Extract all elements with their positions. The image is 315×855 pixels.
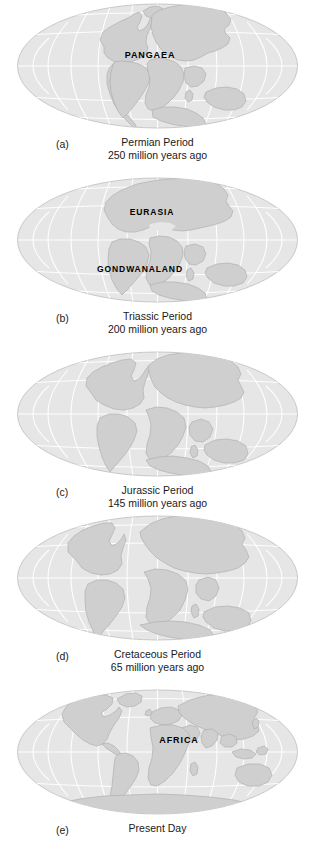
panel-period-a: Permian Period: [0, 136, 315, 149]
panel-a: PANGAEA (a) Permian Period 250 million y…: [0, 0, 315, 157]
map-label-eurasia: EURASIA: [130, 207, 175, 217]
panel-period-c: Jurassic Period: [0, 484, 315, 497]
panel-caption-d: Cretaceous Period 65 million years ago: [0, 648, 315, 673]
panel-caption-a: Permian Period 250 million years ago: [0, 136, 315, 161]
panel-e: AFRICA (e) Present Day: [0, 686, 315, 831]
globe-map-a: PANGAEA: [0, 0, 315, 132]
panel-period-b: Triassic Period: [0, 310, 315, 323]
panel-age-b: 200 million years ago: [0, 323, 315, 336]
panel-caption-b: Triassic Period 200 million years ago: [0, 310, 315, 335]
panel-age-a: 250 million years ago: [0, 149, 315, 162]
globe-map-d: [0, 512, 315, 644]
panel-age-d: 65 million years ago: [0, 661, 315, 674]
panel-period-e: Present Day: [0, 822, 315, 835]
map-label-gondwanaland: GONDWANALAND: [97, 264, 183, 274]
panel-d: (d) Cretaceous Period 65 million years a…: [0, 512, 315, 669]
globe-map-b: EURASIA GONDWANALAND: [0, 174, 315, 306]
panel-period-d: Cretaceous Period: [0, 648, 315, 661]
map-label-africa: AFRICA: [159, 735, 198, 745]
panel-c: (c) Jurassic Period 145 million years ag…: [0, 348, 315, 505]
panel-b: EURASIA GONDWANALAND (b) Triassic Period…: [0, 174, 315, 331]
globe-map-c: [0, 348, 315, 480]
panel-age-c: 145 million years ago: [0, 497, 315, 510]
map-label-pangaea: PANGAEA: [125, 50, 176, 60]
panel-caption-c: Jurassic Period 145 million years ago: [0, 484, 315, 509]
panel-caption-e: Present Day: [0, 822, 315, 835]
continental-drift-figure: PANGAEA (a) Permian Period 250 million y…: [0, 0, 315, 855]
globe-map-e: AFRICA: [0, 686, 315, 818]
